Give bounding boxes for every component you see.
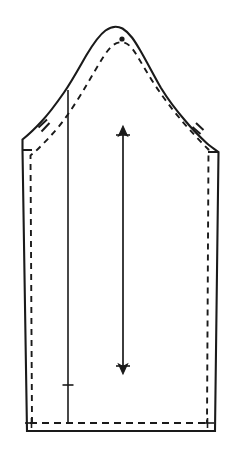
cap-apex-dot-icon bbox=[119, 36, 124, 41]
sleeve-pattern-drawing bbox=[0, 0, 239, 462]
pattern-figure: Sleeve Pattern Piece bbox=[0, 0, 239, 462]
